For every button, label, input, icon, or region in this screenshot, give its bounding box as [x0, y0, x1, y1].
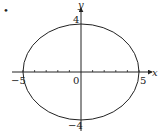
- y-neg-label: −4: [68, 120, 83, 131]
- ellipse-diagram: • x y −5 5 0 4 −4: [0, 0, 161, 136]
- x-axis-label: x: [152, 67, 158, 78]
- x-neg-label: −5: [11, 75, 26, 86]
- origin-label: 0: [73, 75, 79, 86]
- y-pos-label: 4: [73, 14, 79, 25]
- y-axis-label: y: [77, 0, 84, 10]
- bullet-marker: •: [3, 5, 9, 16]
- x-pos-label: 5: [140, 75, 146, 86]
